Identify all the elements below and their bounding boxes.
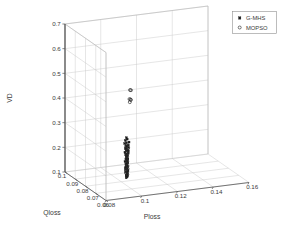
y-tick-label: 0.1: [141, 197, 150, 204]
x-tick-label: 0.1: [58, 172, 67, 179]
legend[interactable]: G-MHSMOPSO: [233, 12, 277, 34]
floor-gridline-ploss: [208, 154, 249, 183]
z-tick-label: 0.6: [52, 45, 61, 52]
y-axis-ticks: 0.080.10.120.140.16: [103, 183, 259, 209]
floor-gridline-ploss: [172, 159, 213, 188]
z-tick-label: 0.4: [52, 94, 61, 101]
floor-gridline-ploss: [101, 168, 142, 197]
y-axis-title: Ploss: [144, 213, 161, 220]
legend-label-text: G-MHS: [246, 15, 265, 21]
data-points-layer: [124, 89, 133, 179]
floor-gridline-ploss: [137, 163, 178, 192]
scatter-plot-3d: 0.10.20.30.40.50.60.7VD0.10.090.080.070.…: [0, 0, 281, 230]
series-mopso: [124, 89, 132, 178]
axis-lines: [65, 24, 249, 201]
legend-label-text: MOPSO: [246, 25, 268, 31]
y-tick-label: 0.16: [246, 183, 259, 190]
x-axis-ticks: 0.10.090.080.070.06: [58, 172, 110, 208]
y-tick-label: 0.08: [103, 201, 116, 208]
z-axis-ticks: 0.10.20.30.40.50.60.7: [52, 20, 65, 175]
z-tick-label: 0.5: [52, 70, 61, 77]
data-point-gmhs: [124, 139, 126, 141]
filled-square-marker: [239, 17, 241, 19]
z-tick-label: 0.2: [52, 144, 61, 151]
y-tick-label: 0.12: [175, 192, 188, 199]
x-tick-label: 0.08: [76, 187, 89, 194]
z-tick-label: 0.3: [52, 119, 61, 126]
x-tick-label: 0.09: [66, 180, 79, 187]
x-tick-label: 0.07: [87, 194, 100, 201]
figure-canvas: 0.10.20.30.40.50.60.7VD0.10.090.080.070.…: [0, 0, 281, 230]
back-wall-grid: [65, 6, 208, 172]
z-tick-label: 0.7: [52, 20, 61, 27]
data-point-gmhs: [128, 141, 130, 143]
x-axis-title: Qloss: [43, 209, 61, 217]
z-axis-title: VD: [6, 93, 13, 103]
left-wall-grid: [65, 24, 106, 201]
y-tick-label: 0.14: [210, 188, 223, 195]
